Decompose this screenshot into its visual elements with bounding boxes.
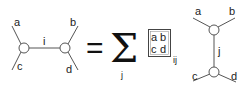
- equals-sign: =: [86, 31, 104, 64]
- box-d: d: [160, 43, 166, 55]
- right-vertex-1: [209, 25, 219, 35]
- crossing-relation-diagram: a c i b d = Σ j a b c d ij a b j c d: [0, 0, 250, 95]
- left-label-b: b: [70, 16, 76, 28]
- right-label-c: c: [192, 70, 198, 82]
- left-edge-b: [68, 26, 78, 44]
- left-label-i: i: [43, 35, 45, 47]
- left-label-c: c: [17, 60, 23, 72]
- diagram-canvas: a c i b d = Σ j a b c d ij a b j c d: [0, 0, 250, 95]
- left-edge-a: [12, 26, 21, 44]
- left-label-a: a: [14, 16, 21, 28]
- right-label-a: a: [195, 5, 202, 17]
- right-label-d: d: [231, 70, 237, 82]
- box-subscript: ij: [173, 55, 177, 65]
- right-edge-a: [193, 18, 210, 27]
- left-vertex-2: [60, 43, 70, 53]
- left-label-d: d: [66, 63, 72, 75]
- right-vertex-2: [209, 67, 219, 77]
- box-a: a: [151, 31, 158, 43]
- coefficient-box: a b c d ij: [149, 30, 178, 66]
- left-graph: a c i b d: [12, 16, 78, 75]
- right-label-b: b: [229, 5, 235, 17]
- summation-symbol: Σ: [110, 25, 138, 71]
- right-label-j: j: [217, 45, 220, 57]
- left-vertex-1: [19, 43, 29, 53]
- sum-index: j: [120, 70, 123, 80]
- right-graph: a b j c d: [192, 5, 237, 82]
- right-edge-b: [218, 18, 235, 27]
- box-c: c: [151, 43, 157, 55]
- box-b: b: [160, 31, 166, 43]
